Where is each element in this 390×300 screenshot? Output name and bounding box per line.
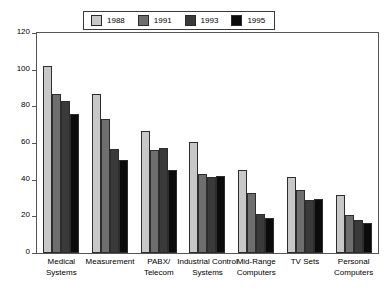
bar — [207, 177, 216, 253]
bar — [296, 190, 305, 253]
bar — [189, 142, 198, 253]
x-axis-label-line: Systems — [27, 267, 96, 278]
legend-swatch — [185, 15, 196, 26]
bar — [110, 149, 119, 254]
legend-label: 1988 — [107, 17, 125, 25]
x-axis-label-line: Personal — [319, 256, 388, 267]
y-axis-tick-label: 40 — [21, 175, 30, 183]
bar-group — [232, 33, 281, 253]
bar — [354, 220, 363, 253]
legend-label: 1995 — [247, 17, 265, 25]
bar — [238, 170, 247, 253]
legend-swatch — [138, 15, 149, 26]
y-axis-tick-label: 100 — [17, 65, 30, 73]
bar-group — [329, 33, 378, 253]
y-axis-tick-label: 0 — [26, 248, 30, 256]
y-axis-tick-label: 60 — [21, 138, 30, 146]
bar-group — [86, 33, 135, 253]
bar — [168, 170, 177, 253]
legend-label: 1991 — [154, 17, 172, 25]
plot-area — [37, 33, 378, 253]
bar — [61, 101, 70, 253]
bar — [216, 176, 225, 253]
bar — [345, 215, 354, 254]
y-axis-tick-label: 20 — [21, 211, 30, 219]
bar — [119, 160, 128, 254]
bar — [305, 200, 314, 253]
bar — [198, 174, 207, 253]
x-axis-label-line: Computers — [319, 267, 388, 278]
bar — [336, 195, 345, 253]
bar — [314, 199, 323, 253]
grouped-bar-chart: 1988199119931995 020406080100120 Medical… — [0, 0, 390, 300]
bar — [52, 94, 61, 254]
bar-group — [134, 33, 183, 253]
bar — [247, 193, 256, 253]
bar — [363, 223, 372, 253]
bar — [141, 131, 150, 253]
bar — [256, 214, 265, 253]
bar — [159, 148, 168, 253]
y-axis-tick-label: 120 — [17, 28, 30, 36]
bar-group — [183, 33, 232, 253]
x-axis-label-line: Computers — [222, 267, 291, 278]
bar — [43, 66, 52, 253]
legend-swatch — [91, 15, 102, 26]
bar — [265, 218, 274, 253]
legend-entry: 1988 — [91, 15, 125, 26]
legend-swatch — [231, 15, 242, 26]
legend-entry: 1991 — [138, 15, 172, 26]
bar — [287, 177, 296, 253]
x-axis-labels: MedicalSystemsMeasurementPABX/TelecomInd… — [37, 256, 378, 300]
legend-entry: 1993 — [185, 15, 219, 26]
legend-label: 1993 — [201, 17, 219, 25]
bar-group — [37, 33, 86, 253]
bar-group — [281, 33, 330, 253]
x-axis-label: PersonalComputers — [319, 256, 388, 278]
chart-legend: 1988199119931995 — [83, 11, 275, 30]
y-axis: 020406080100120 — [0, 32, 36, 254]
bar — [70, 114, 79, 253]
y-axis-tick-label: 80 — [21, 101, 30, 109]
legend-entry: 1995 — [231, 15, 265, 26]
bar — [150, 150, 159, 253]
bar — [92, 94, 101, 253]
bar — [101, 119, 110, 253]
